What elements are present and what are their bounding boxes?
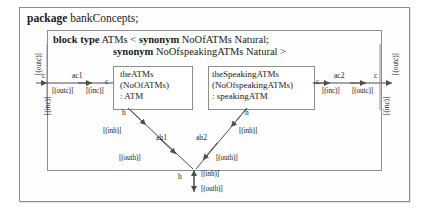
flow-label-ac1-inc: [(inc)] <box>86 87 104 95</box>
flow-label-ah2-outh: [(outh)] <box>216 154 238 162</box>
connector-label-ac2: ac2 <box>334 71 345 80</box>
port-label-theatms-c: c <box>105 77 108 86</box>
connector-label-ac1: ac1 <box>72 71 83 80</box>
ah2-arrow-b <box>203 143 217 160</box>
flow-label-left-outer-outc: [(outc)] <box>35 53 43 75</box>
connector-label-ah1: ah1 <box>156 133 167 142</box>
flow-label-ah1-inh: [(inh)] <box>103 127 121 135</box>
diagram-canvas: package bankConcepts; block type ATMs < … <box>0 0 426 216</box>
flow-label-bottom-inh: [(inh)] <box>201 170 219 178</box>
port-label-right-outer-c: c <box>374 71 377 80</box>
port-label-theatms-h: h <box>122 108 126 117</box>
flow-label-left-outer-inc: [(inc)] <box>44 97 52 115</box>
flow-label-ac2-inc: [(inc)] <box>322 87 340 95</box>
flow-label-bottom-outh: [(outh)] <box>201 185 223 193</box>
flow-label-ac1-outc: [(outc)] <box>52 87 73 95</box>
flow-label-ac2-outc: [(outc)] <box>352 87 373 95</box>
port-label-bottom-outer-h: h <box>178 172 182 181</box>
port-label-thespeakingatms-c: c <box>316 77 319 86</box>
connector-overlay <box>0 0 426 216</box>
flow-label-right-outer-outc: [(outc)] <box>392 53 400 75</box>
connector-label-ah2: ah2 <box>196 133 207 142</box>
flow-label-right-outer-inc: [(inc)] <box>383 97 391 115</box>
flow-label-ah2-inh: [(inh)] <box>239 127 257 135</box>
ah1-arrow-a <box>128 108 146 125</box>
port-label-thespeakingatms-h: h <box>245 108 249 117</box>
flow-label-ah1-outh: [(outh)] <box>119 154 141 162</box>
